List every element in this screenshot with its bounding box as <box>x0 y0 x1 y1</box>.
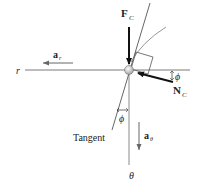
free-body-diagram: r θ Tangent F C N C ϕ ϕ a r a θ <box>0 0 203 191</box>
accel-atheta-label: a <box>144 130 149 141</box>
tangent-label: Tangent <box>73 132 105 143</box>
theta-axis-label: θ <box>129 170 134 181</box>
phi-bottom-label: ϕ <box>119 113 124 124</box>
force-fc-subscript: C <box>129 14 134 22</box>
particle <box>125 66 134 75</box>
force-nc-arrow <box>138 73 173 82</box>
accel-ar-subscript: r <box>59 55 62 61</box>
force-nc-subscript: C <box>182 91 187 99</box>
accel-atheta-subscript: θ <box>150 136 153 142</box>
r-axis-label: r <box>16 65 20 76</box>
path-curve <box>131 27 166 62</box>
force-nc-label: N <box>173 84 181 96</box>
phi-right-label: ϕ <box>175 71 180 82</box>
accel-ar-label: a <box>53 49 58 60</box>
force-fc-label: F <box>121 7 128 19</box>
